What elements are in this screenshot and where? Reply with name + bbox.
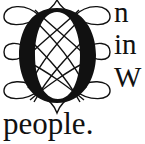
ornament-o-icon: [0, 0, 115, 115]
text-line-2: in: [114, 30, 137, 59]
text-line-3: W: [114, 63, 141, 92]
text-line-1: n: [114, 0, 129, 27]
ornamental-drop-cap: [0, 0, 115, 115]
continuation-text: people.: [3, 107, 93, 141]
